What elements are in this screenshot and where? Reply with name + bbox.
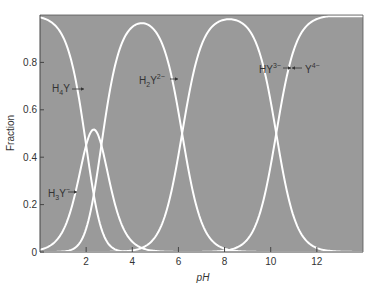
y-tick-label: 0.6 (23, 104, 37, 115)
y-axis-label: Fraction (5, 115, 16, 151)
y-tick-label: 0.8 (23, 57, 37, 68)
y-tick-label: 0.4 (23, 152, 37, 163)
x-tick-label: 4 (130, 256, 136, 267)
x-tick-label: 10 (265, 256, 277, 267)
x-tick-label: 2 (83, 256, 89, 267)
x-tick-label: 8 (222, 256, 228, 267)
y-tick-label: 0 (31, 247, 37, 258)
x-tick-label: 6 (176, 256, 182, 267)
y-tick-label: 0.2 (23, 199, 37, 210)
species-fraction-chart: 24681012 00.20.40.60.8 pH Fraction H4YH3… (0, 0, 375, 293)
x-axis-label: pH (196, 272, 211, 283)
x-tick-label: 12 (311, 256, 323, 267)
